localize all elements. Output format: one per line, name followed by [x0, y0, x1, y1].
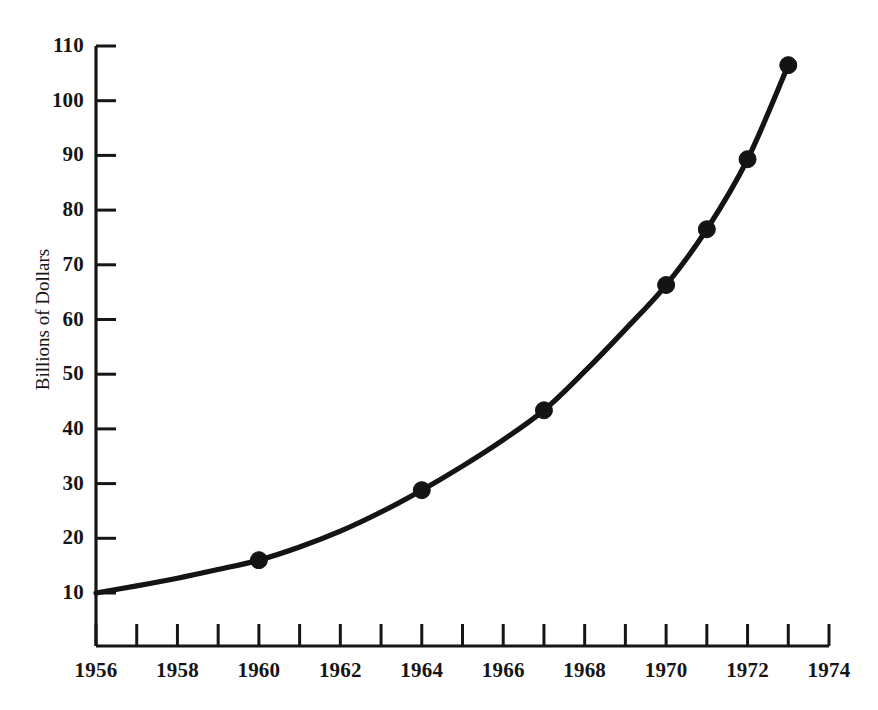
x-tick-label: 1974	[779, 658, 878, 683]
data-point-marker	[739, 151, 756, 168]
line-chart: Billions of Dollars 10203040506070809010…	[0, 0, 878, 710]
series-line	[96, 65, 788, 593]
data-point-marker	[413, 482, 430, 499]
y-tick-label: 50	[0, 361, 84, 386]
data-point-marker	[658, 277, 675, 294]
data-series-line	[96, 65, 788, 593]
y-tick-label: 80	[0, 197, 84, 222]
data-point-markers	[250, 57, 796, 569]
y-tick-label: 70	[0, 252, 84, 277]
plot-area	[0, 0, 878, 710]
y-tick-label: 30	[0, 471, 84, 496]
data-point-marker	[780, 57, 797, 74]
y-tick-label: 60	[0, 307, 84, 332]
y-tick-label: 40	[0, 416, 84, 441]
axis-lines	[96, 46, 829, 646]
y-tick-label: 90	[0, 142, 84, 167]
data-point-marker	[698, 221, 715, 238]
y-tick-label: 100	[0, 88, 84, 113]
y-tick-label: 110	[0, 33, 84, 58]
y-tick-label: 10	[0, 580, 84, 605]
data-point-marker	[250, 552, 267, 569]
data-point-marker	[535, 402, 552, 419]
x-axis-ticks	[96, 624, 829, 646]
y-axis-ticks	[96, 46, 116, 593]
y-tick-label: 20	[0, 525, 84, 550]
